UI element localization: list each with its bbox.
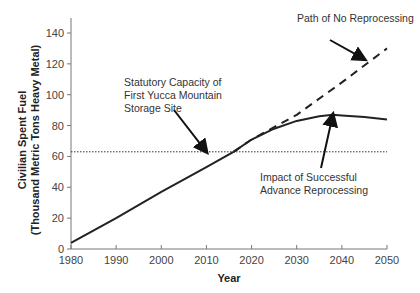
annotations: Path of No ReprocessingStatutory Capacit… [124, 12, 414, 196]
y-tick-label: 100 [46, 89, 64, 101]
annotation-label: Path of No Reprocessing [297, 12, 414, 24]
y-tick-label: 80 [52, 120, 64, 132]
x-axis-title: Year [217, 272, 241, 284]
annotation-label: Statutory Capacity ofFirst Yucca Mountai… [124, 76, 222, 114]
x-tick-label: 2050 [375, 254, 399, 266]
y-tick-label: 40 [52, 181, 64, 193]
spent-fuel-chart: 1980199020002010202020302040205002040608… [0, 0, 420, 293]
y-tick-label: 140 [46, 27, 64, 39]
y-axis-title: Civilian Spent Fuel(Thousand Metric Tons… [16, 44, 41, 235]
x-tick-label: 2030 [284, 254, 308, 266]
x-tick-label: 1990 [104, 254, 128, 266]
x-tick-label: 2020 [239, 254, 263, 266]
x-tick-label: 2040 [330, 254, 354, 266]
y-tick-label: 120 [46, 58, 64, 70]
y-tick-label: 60 [52, 150, 64, 162]
y-tick-label: 0 [58, 243, 64, 255]
y-tick-label: 20 [52, 212, 64, 224]
axes: 1980199020002010202020302040205002040608… [16, 18, 399, 284]
x-tick-label: 1980 [59, 254, 83, 266]
x-tick-label: 2000 [149, 254, 173, 266]
x-tick-label: 2010 [194, 254, 218, 266]
annotation-arrow [330, 40, 364, 59]
data-series [71, 48, 387, 242]
annotation-arrow [174, 110, 206, 152]
annotation-arrow [321, 115, 333, 168]
annotation-label: Impact of SuccessfulAdvance Reprocessing [260, 171, 368, 196]
